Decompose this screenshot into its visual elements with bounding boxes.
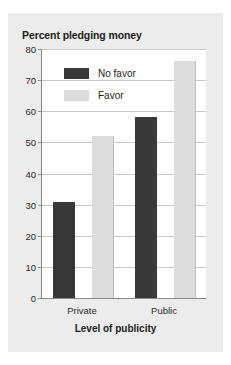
legend-item-no-favor: No favor bbox=[64, 65, 136, 82]
y-tick-label: 80 bbox=[25, 44, 36, 55]
y-tick-label: 30 bbox=[25, 199, 36, 210]
chart-title: Percent pledging money bbox=[22, 29, 142, 41]
x-tick-label-public: Public bbox=[151, 305, 177, 316]
y-tick-label: 70 bbox=[25, 75, 36, 86]
bar-private-favor bbox=[92, 136, 114, 298]
x-tick-label-private: Private bbox=[67, 305, 97, 316]
bar-public-favor bbox=[174, 61, 196, 298]
legend: No favor Favor bbox=[64, 65, 136, 109]
legend-swatch-favor bbox=[64, 90, 89, 101]
figure-card: Percent pledging money 01020304050607080… bbox=[8, 13, 223, 352]
y-tick-label: 0 bbox=[31, 293, 36, 304]
legend-label-no-favor: No favor bbox=[98, 68, 136, 79]
y-tick-label: 60 bbox=[25, 106, 36, 117]
bar-private-no-favor bbox=[53, 202, 75, 298]
y-tick-mark bbox=[38, 298, 42, 299]
legend-swatch-no-favor bbox=[64, 68, 89, 79]
y-tick-label: 20 bbox=[25, 230, 36, 241]
plot-area: 01020304050607080 No favor Favor bbox=[41, 49, 206, 299]
x-axis-title: Level of publicity bbox=[8, 323, 223, 334]
y-tick-label: 40 bbox=[25, 168, 36, 179]
y-tick-label: 10 bbox=[25, 261, 36, 272]
legend-item-favor: Favor bbox=[64, 87, 136, 104]
legend-label-favor: Favor bbox=[98, 90, 124, 101]
y-tick-label: 50 bbox=[25, 137, 36, 148]
bar-public-no-favor bbox=[135, 117, 157, 298]
